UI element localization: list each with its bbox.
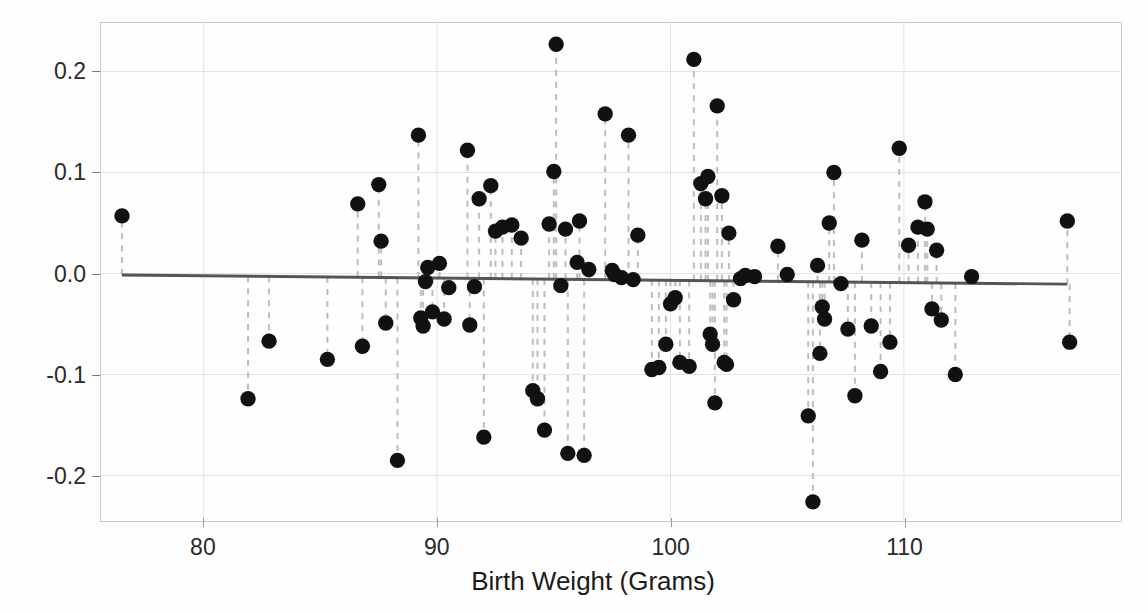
y-tick-mark [92,375,100,376]
data-point [597,106,612,121]
data-point [467,279,482,294]
plot-area [100,22,1122,522]
data-point [840,321,855,336]
y-tick-label: 0.2 [54,57,86,84]
data-point [770,239,785,254]
data-point [854,233,869,248]
x-tick-mark [203,518,204,527]
x-axis-title: Birth Weight (Grams) [0,566,1148,597]
data-point [415,318,430,333]
data-point [726,292,741,307]
data-point [390,453,405,468]
data-point [558,221,573,236]
data-point [892,141,907,156]
data-point [576,448,591,463]
x-tick-mark [437,518,438,527]
data-point [1062,335,1077,350]
data-point [721,225,736,240]
data-point [625,272,640,287]
data-point [581,262,596,277]
data-point [432,256,447,271]
data-point [541,216,556,231]
x-tick-label: 110 [886,534,923,561]
data-point [621,127,636,142]
data-point [436,311,451,326]
data-point [462,317,477,332]
y-tick-label: 0.0 [54,260,86,287]
data-point [261,334,276,349]
data-point [710,98,725,113]
y-axis-title: Residuals [0,150,3,410]
data-point [810,258,825,273]
data-point [707,395,722,410]
y-axis-region: Residuals [0,0,100,613]
y-tick-mark [92,274,100,275]
data-point [705,337,720,352]
data-point [418,274,433,289]
residual-plot-figure: Residuals 0.20.10.0-0.1-0.28090100110 Bi… [0,0,1148,613]
x-tick-label: 100 [651,534,689,561]
data-point [504,217,519,232]
data-point [411,127,426,142]
data-point [747,269,762,284]
data-point [548,37,563,52]
x-tick-mark [671,518,672,527]
x-tick-mark [905,518,906,527]
data-point [114,208,129,223]
data-point [929,243,944,258]
data-point [780,267,795,282]
stem-lines [122,44,1070,502]
data-point [686,52,701,67]
data-point [917,194,932,209]
data-point [817,311,832,326]
data-point [719,357,734,372]
x-tick-label: 80 [190,534,216,561]
data-point [901,238,916,253]
data-point [373,234,388,249]
data-point [378,315,393,330]
data-point [513,230,528,245]
y-tick-label: -0.1 [46,361,86,388]
data-point [1060,213,1075,228]
data-point [822,215,837,230]
data-point [240,391,255,406]
data-point [560,446,575,461]
data-point [355,339,370,354]
data-point [882,335,897,350]
data-point [553,278,568,293]
y-tick-mark [92,71,100,72]
data-point [530,391,545,406]
data-point [920,221,935,236]
data-point [651,360,666,375]
y-tick-label: 0.1 [54,159,86,186]
data-point [698,191,713,206]
data-point [483,178,498,193]
data-point [546,164,561,179]
data-point [460,143,475,158]
data-point [934,312,949,327]
plot-canvas [101,23,1121,521]
y-tick-mark [92,476,100,477]
y-tick-mark [92,172,100,173]
y-tick-label: -0.2 [46,463,86,490]
data-point [714,188,729,203]
data-point [873,364,888,379]
data-point [471,191,486,206]
data-point [805,494,820,509]
data-point [371,177,386,192]
data-point [948,367,963,382]
data-point [476,429,491,444]
data-point [682,359,697,374]
data-point [658,337,673,352]
data-points [114,37,1077,510]
data-point [572,213,587,228]
data-point [847,388,862,403]
data-point [833,276,848,291]
data-point [964,269,979,284]
data-point [320,352,335,367]
data-point [812,346,827,361]
data-point [864,318,879,333]
data-point [668,290,683,305]
data-point [441,280,456,295]
data-point [630,227,645,242]
